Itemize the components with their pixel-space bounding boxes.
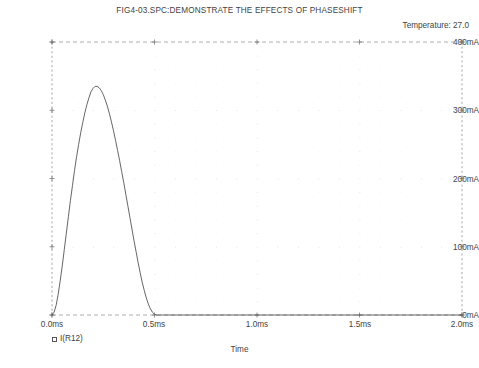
spice-plot-window: FIG4-03.SPC:DEMONSTRATE THE EFFECTS OF P… [0, 0, 479, 368]
data-trace-ir12 [52, 86, 462, 315]
grid-dots [73, 56, 443, 303]
plot-canvas [0, 0, 479, 368]
